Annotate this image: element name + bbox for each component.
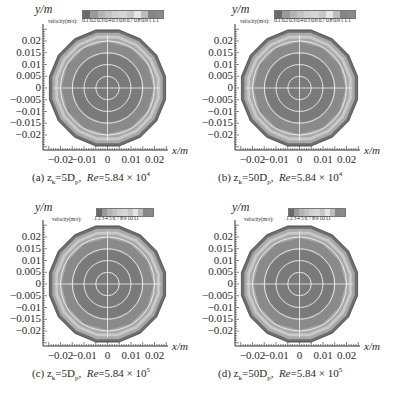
y-tick-label: −0.015	[10, 117, 41, 128]
x-tick-label: −0.02	[240, 153, 265, 165]
colorbar-label: velocity(m/s):	[244, 216, 273, 222]
x-tick-label: 0.01	[121, 153, 140, 165]
y-tick-label: 0	[36, 278, 42, 289]
y-tick-label: −0.005	[202, 290, 233, 301]
y-tick-label: −0.02	[208, 129, 233, 140]
y-tick-label: 0.005	[16, 70, 41, 81]
y-tick-label: −0.02	[16, 129, 41, 140]
y-tick-label: −0.02	[208, 325, 233, 336]
x-axis-label: x/m	[364, 144, 380, 156]
y-tick-label: 0.02	[22, 35, 41, 46]
y-axis-ticks: 0.020.0150.010.0050−0.005−0.01−0.015−0.0…	[192, 0, 233, 150]
x-tick-label: −0.01	[71, 153, 96, 165]
y-tick-label: 0.005	[208, 70, 233, 81]
y-axis-ticks: 0.020.0150.010.0050−0.005−0.01−0.015−0.0…	[192, 196, 233, 346]
y-tick-label: 0	[228, 82, 234, 93]
x-axis-ticks: −0.02−0.0100.010.02	[0, 349, 200, 363]
y-tick-label: −0.005	[202, 94, 233, 105]
y-tick-label: −0.01	[16, 302, 41, 313]
y-tick-label: −0.01	[208, 106, 233, 117]
y-axis-label: y/m	[232, 2, 249, 17]
y-tick-label: 0.02	[214, 35, 233, 46]
x-tick-label: −0.02	[240, 349, 265, 361]
y-tick-label: 0.015	[208, 243, 233, 254]
y-tick-label: 0	[36, 82, 42, 93]
y-tick-label: 0.01	[22, 255, 41, 266]
x-tick-label: 0	[105, 153, 111, 165]
x-tick-label: 0	[297, 153, 303, 165]
x-tick-label: 0	[297, 349, 303, 361]
y-tick-label: −0.01	[208, 302, 233, 313]
panel-caption: (b) zk=50Dp, Re=5.84 × 104	[218, 170, 342, 186]
y-tick-label: 0.02	[214, 231, 233, 242]
y-tick-label: 0	[228, 278, 234, 289]
y-axis-ticks: 0.020.0150.010.0050−0.005−0.01−0.015−0.0…	[0, 196, 41, 346]
colorbar-label: velocity(m/s):	[52, 216, 81, 222]
y-tick-label: 0.015	[16, 47, 41, 58]
x-axis-ticks: −0.02−0.0100.010.02	[0, 153, 200, 167]
x-axis-ticks: −0.02−0.0100.010.02	[192, 153, 392, 167]
colorbar-ticks: 1 2 3 4 5 6 7 8 9 10 11	[286, 215, 331, 221]
y-axis-ticks: 0.020.0150.010.0050−0.005−0.01−0.015−0.0…	[0, 0, 41, 150]
x-axis-label: x/m	[172, 340, 188, 352]
y-tick-label: 0.02	[22, 231, 41, 242]
y-tick-label: 0.015	[208, 47, 233, 58]
x-tick-label: 0.02	[337, 349, 356, 361]
x-tick-label: 0.01	[121, 349, 140, 361]
y-tick-label: −0.015	[202, 117, 233, 128]
y-tick-label: −0.005	[10, 94, 41, 105]
panel-caption: (d) zk=50Dp, Re=5.84 × 105	[218, 366, 342, 382]
x-tick-label: −0.01	[263, 153, 288, 165]
x-tick-label: −0.02	[48, 349, 73, 361]
colorbar-label: velocity(m/s):	[240, 18, 269, 24]
x-tick-label: 0.02	[145, 349, 164, 361]
x-axis-ticks: −0.02−0.0100.010.02	[192, 349, 392, 363]
x-tick-label: 0	[105, 349, 111, 361]
y-tick-label: −0.015	[10, 313, 41, 324]
colorbar-ticks: 0.1 0.2 0.3 0.4 0.5 0.6 0.7 0.8 0.9 1 1.…	[82, 17, 159, 23]
x-tick-label: 0.01	[313, 153, 332, 165]
x-tick-label: −0.02	[48, 153, 73, 165]
y-tick-label: 0.01	[214, 255, 233, 266]
x-axis-label: x/m	[172, 144, 188, 156]
panel-a: y/mvelocity(m/s):0.1 0.2 0.3 0.4 0.5 0.6…	[0, 0, 200, 196]
y-axis-label: y/m	[232, 200, 249, 215]
y-tick-label: −0.01	[16, 106, 41, 117]
y-tick-label: −0.005	[10, 290, 41, 301]
panel-caption: (a) zk=5Dp, Re=5.84 × 104	[32, 170, 150, 186]
y-tick-label: −0.015	[202, 313, 233, 324]
panel-b: y/mvelocity(m/s):0.1 0.2 0.3 0.4 0.5 0.6…	[192, 0, 392, 196]
x-tick-label: 0.01	[313, 349, 332, 361]
panel-d: y/mvelocity(m/s):1 2 3 4 5 6 7 8 9 10 11…	[192, 196, 392, 392]
x-tick-label: 0.02	[145, 153, 164, 165]
y-tick-label: 0.015	[16, 243, 41, 254]
y-tick-label: 0.01	[214, 59, 233, 70]
x-tick-label: 0.02	[337, 153, 356, 165]
colorbar-label: velocity(m/s):	[48, 18, 77, 24]
y-tick-label: 0.005	[16, 266, 41, 277]
y-tick-label: −0.02	[16, 325, 41, 336]
x-tick-label: −0.01	[71, 349, 96, 361]
x-axis-label: x/m	[364, 340, 380, 352]
panel-caption: (c) zk=5Dp, Re=5.84 × 105	[32, 366, 150, 382]
x-tick-label: −0.01	[263, 349, 288, 361]
colorbar-ticks: 0.1 0.2 0.3 0.4 0.5 0.6 0.7 0.8 0.9 1 1.…	[274, 17, 351, 23]
colorbar-ticks: 1 2 3 4 5 6 7 8 9 10 11	[94, 215, 139, 221]
panel-c: y/mvelocity(m/s):1 2 3 4 5 6 7 8 9 10 11…	[0, 196, 200, 392]
y-tick-label: 0.005	[208, 266, 233, 277]
y-tick-label: 0.01	[22, 59, 41, 70]
